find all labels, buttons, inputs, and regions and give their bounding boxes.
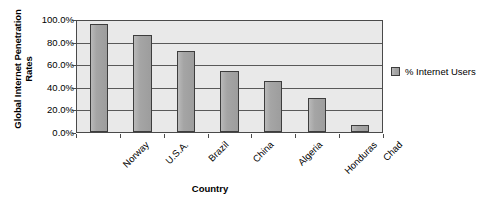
legend-label: % Internet Users	[405, 66, 476, 77]
bar-slot	[208, 21, 252, 132]
x-axis-title: Country	[0, 183, 420, 194]
bar	[220, 71, 238, 132]
bar-slot	[338, 21, 382, 132]
x-axis-category-labels: NorwayU.S.A.BrazilChinaAlgeriaHondurasCh…	[76, 133, 383, 178]
x-axis-category-label: Algeria	[295, 139, 324, 168]
y-axis-tick-label: 60.0%	[14, 60, 74, 70]
bar-series	[77, 21, 382, 132]
y-axis-tick-label: 0.0%	[14, 128, 74, 138]
y-axis-tick-label: 40.0%	[14, 83, 74, 93]
bar	[308, 98, 326, 132]
x-axis-category-label: U.S.A.	[163, 139, 190, 166]
legend-swatch-icon	[391, 67, 400, 76]
bar-slot	[164, 21, 208, 132]
x-axis-category-label: Chad	[381, 139, 405, 163]
bar	[133, 35, 151, 132]
y-axis-tick-label: 100.0%	[14, 15, 74, 25]
x-axis-category-label: Brazil	[206, 139, 231, 164]
x-axis-category-label: China	[250, 139, 275, 164]
bar	[90, 24, 108, 132]
bar-slot	[295, 21, 339, 132]
bar-slot	[77, 21, 121, 132]
chart-legend: % Internet Users	[391, 66, 476, 77]
y-axis-tick-label: 20.0%	[14, 105, 74, 115]
bar	[177, 51, 195, 132]
y-axis-tick-label: 80.0%	[14, 38, 74, 48]
bar-slot	[251, 21, 295, 132]
x-axis-category-label: Norway	[121, 139, 152, 170]
x-axis-category-label: Honduras	[342, 139, 379, 176]
bar-slot	[121, 21, 165, 132]
bar-chart: Global Internet Penetration Rates 100.0%…	[0, 0, 499, 204]
plot-area	[76, 20, 383, 133]
bar	[351, 125, 369, 132]
x-axis-tick-mark	[383, 134, 384, 138]
bar	[264, 81, 282, 132]
